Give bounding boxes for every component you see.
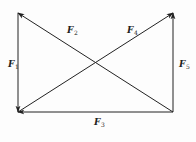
label-f5: F5: [179, 60, 190, 70]
label-f2: F2: [67, 26, 78, 36]
label-f5-subscript: 5: [186, 63, 190, 70]
label-f3-symbol: F: [94, 117, 100, 127]
label-f1: F1: [8, 60, 19, 70]
label-f2-subscript: 2: [74, 29, 78, 36]
label-f2-symbol: F: [67, 25, 73, 35]
label-f4-subscript: 4: [134, 29, 138, 36]
label-f4: F4: [127, 26, 138, 36]
label-f3: F3: [94, 118, 105, 128]
label-f1-subscript: 1: [15, 63, 19, 70]
force-diagram: F1 F2 F3 F4 F5: [0, 0, 196, 142]
label-f1-symbol: F: [8, 59, 14, 69]
label-f3-subscript: 3: [101, 121, 105, 128]
label-f4-symbol: F: [127, 25, 133, 35]
label-f5-symbol: F: [179, 59, 185, 69]
